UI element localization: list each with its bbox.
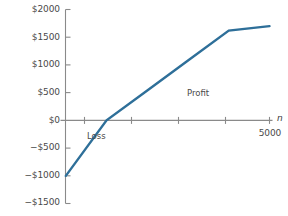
y-axis-label-1000: $1000 [0,59,60,69]
y-axis-label-0: $0 [0,115,60,125]
annotation-profit: Profit [187,88,209,98]
y-axis-label-neg1000: −$1000 [0,170,60,180]
y-axis-label-1500: $1500 [0,32,60,42]
x-axis-name: n [277,113,283,123]
y-axis-label-500: $500 [0,87,60,97]
y-axis-label-neg1500: −$1500 [0,197,60,207]
profit-loss-line [66,26,270,176]
y-axis-label-2000: $2000 [0,4,60,14]
x-axis-label-5000: 5000 [250,128,288,138]
chart-container: $2000 $1500 $1000 $500 $0 −$500 −$1000 −… [0,0,288,216]
annotation-loss: Loss [87,131,106,141]
y-axis-label-neg500: −$500 [0,142,60,152]
